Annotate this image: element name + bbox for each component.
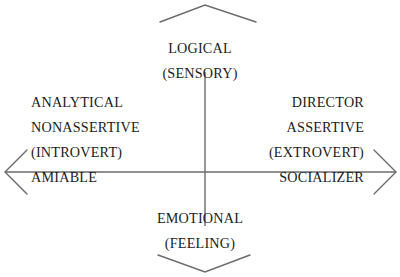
arrow-up-icon	[160, 5, 256, 22]
left-pole-labels: ANALYTICAL NONASSERTIVE (INTROVERT) AMIA…	[31, 90, 140, 190]
bottom-pole-secondary-label: (FEELING)	[0, 231, 400, 256]
left-label-amiable: AMIABLE	[31, 165, 140, 190]
bottom-pole-primary-label: EMOTIONAL	[0, 206, 400, 231]
arrow-down-icon	[158, 255, 250, 272]
top-pole-secondary-label: (SENSORY)	[0, 61, 400, 86]
left-label-analytical: ANALYTICAL	[31, 90, 140, 115]
personality-quadrant-diagram: LOGICAL (SENSORY) ANALYTICAL NONASSERTIV…	[0, 0, 400, 277]
right-label-extrovert: (EXTROVERT)	[180, 140, 364, 165]
top-pole-primary-label: LOGICAL	[0, 36, 400, 61]
right-label-director: DIRECTOR	[180, 90, 364, 115]
top-pole-labels: LOGICAL (SENSORY)	[0, 36, 400, 86]
right-label-assertive: ASSERTIVE	[180, 115, 364, 140]
left-label-nonassertive: NONASSERTIVE	[31, 115, 140, 140]
right-label-socializer: SOCIALIZER	[180, 165, 364, 190]
bottom-pole-labels: EMOTIONAL (FEELING)	[0, 206, 400, 256]
right-pole-labels: DIRECTOR ASSERTIVE (EXTROVERT) SOCIALIZE…	[180, 90, 364, 190]
left-label-introvert: (INTROVERT)	[31, 140, 140, 165]
